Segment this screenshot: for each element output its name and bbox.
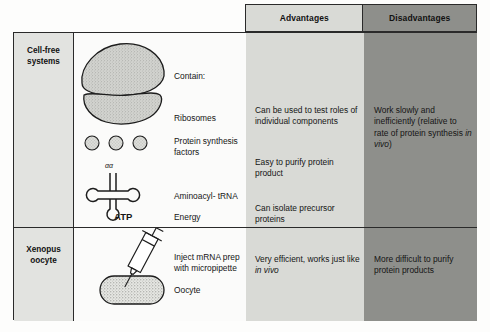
inject-label-line2: with micropipette bbox=[174, 263, 237, 273]
syringe bbox=[115, 228, 166, 292]
row-label-line2: oocyte bbox=[30, 256, 56, 265]
oocyte-label: Oocyte bbox=[174, 285, 201, 296]
disadvantages-cell-free-systems: Work slowly and inefficiently (relative … bbox=[364, 33, 477, 227]
factors-label: Protein synthesis factors bbox=[174, 136, 246, 158]
factor-circle-3 bbox=[133, 136, 147, 150]
ribosome-large-subunit bbox=[82, 44, 164, 96]
table-header-band: Advantages Disadvantages bbox=[245, 4, 477, 32]
oocyte-body bbox=[100, 276, 164, 304]
aminoacyl-trna-label: Aminoacyl- tRNA bbox=[174, 191, 238, 202]
disadvantage-text-prefix: Work slowly and inefficiently (relative … bbox=[374, 105, 465, 138]
contain-label: Contain: bbox=[174, 71, 205, 82]
advantage-text-prefix: Very efficient, works just like bbox=[255, 254, 360, 264]
oocyte-diagram-svg bbox=[74, 228, 246, 321]
factors-label-line1: Protein synthesis bbox=[174, 136, 238, 146]
factor-circle-1 bbox=[85, 136, 99, 150]
header-disadvantages: Disadvantages bbox=[363, 5, 476, 31]
factor-circle-2 bbox=[109, 136, 123, 150]
disadvantage-text-suffix: ) bbox=[389, 139, 392, 149]
diagram-cell-free-systems: Contain: Ribosomes Protein synthesis fac… bbox=[74, 33, 246, 227]
advantage-text-italic: in vivo bbox=[255, 265, 279, 275]
table-row: Cell-free systems bbox=[14, 33, 476, 227]
inject-label: Inject mRNA prep with micropipette bbox=[174, 252, 246, 274]
advantage-item: Easy to purify protein product bbox=[255, 157, 359, 180]
figure-cell-free-vs-oocyte: Advantages Disadvantages Cell-free syste… bbox=[0, 0, 490, 332]
row-label-text: Cell-free systems bbox=[14, 45, 73, 67]
atp-label: ATP bbox=[114, 211, 132, 222]
row-label-text: Xenopus oocyte bbox=[14, 244, 73, 266]
row-label-line1: Xenopus bbox=[26, 245, 61, 254]
row-label-cell-free-systems: Cell-free systems bbox=[14, 33, 74, 227]
trna-aminoacid-label: αα bbox=[105, 160, 113, 171]
advantage-item: Can be used to test roles of individual … bbox=[255, 105, 359, 128]
disadvantage-item: Work slowly and inefficiently (relative … bbox=[374, 105, 473, 151]
disadvantage-item: More difficult to purify protein product… bbox=[374, 254, 472, 277]
table-row: Xenopus oocyte bbox=[14, 227, 476, 321]
energy-label: Energy bbox=[174, 212, 201, 223]
row-label-line1: Cell-free bbox=[27, 46, 60, 55]
ribosomes-label: Ribosomes bbox=[174, 113, 216, 124]
ribosome-small-subunit bbox=[84, 93, 162, 124]
advantage-item: Can isolate precursor proteins bbox=[255, 203, 359, 226]
advantages-cell-free-systems: Can be used to test roles of individual … bbox=[246, 33, 364, 227]
inject-label-line1: Inject mRNA prep bbox=[174, 252, 240, 262]
diagram-xenopus-oocyte: Inject mRNA prep with micropipette Oocyt… bbox=[74, 228, 246, 321]
advantages-xenopus-oocyte: Very efficient, works just like in vivo bbox=[246, 228, 364, 321]
disadvantages-xenopus-oocyte: More difficult to purify protein product… bbox=[364, 228, 477, 321]
factors-label-line2: factors bbox=[174, 147, 199, 157]
row-label-xenopus-oocyte: Xenopus oocyte bbox=[14, 228, 74, 321]
comparison-table: Cell-free systems bbox=[13, 32, 477, 320]
advantage-item: Very efficient, works just like in vivo bbox=[255, 254, 360, 277]
header-advantages: Advantages bbox=[246, 5, 363, 31]
row-label-line2: systems bbox=[27, 57, 60, 66]
